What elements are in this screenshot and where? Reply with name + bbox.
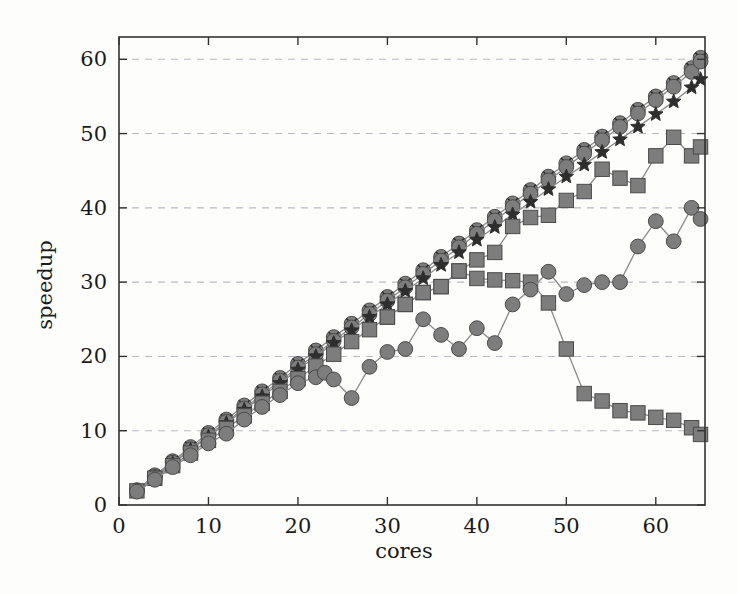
marker-square	[344, 334, 358, 348]
x-tick-label-0: 0	[112, 514, 125, 538]
marker-square	[488, 245, 502, 259]
x-tick-label-20: 20	[285, 514, 312, 538]
marker-square	[595, 162, 609, 176]
data-series-layer	[129, 50, 707, 499]
y-tick-label-40: 40	[80, 196, 107, 220]
marker-circle	[129, 484, 144, 499]
marker-square	[631, 406, 645, 420]
y-axis-label: speedup	[33, 240, 57, 330]
marker-circle	[595, 275, 610, 290]
marker-circle	[434, 327, 449, 342]
marker-square	[577, 184, 591, 198]
chart-canvas: 01020304050600102030405060 cores speedup	[0, 0, 737, 594]
marker-circle	[666, 79, 681, 94]
marker-square	[327, 347, 341, 361]
y-tick-label-30: 30	[80, 270, 107, 294]
series-collapsing-square-series	[380, 264, 708, 442]
marker-circle	[648, 93, 663, 108]
marker-square	[470, 271, 484, 285]
marker-circle	[398, 342, 413, 357]
marker-circle	[648, 214, 663, 229]
x-tick-label-10: 10	[195, 514, 222, 538]
series-line	[137, 208, 701, 492]
speedup-chart-figure: 01020304050600102030405060 cores speedup	[0, 0, 737, 594]
x-tick-label-50: 50	[553, 514, 580, 538]
marker-circle	[291, 376, 306, 391]
marker-circle	[577, 278, 592, 293]
y-tick-label-60: 60	[80, 47, 107, 71]
marker-circle	[416, 312, 431, 327]
marker-circle	[613, 275, 628, 290]
marker-square	[505, 273, 519, 287]
marker-circle	[541, 264, 556, 279]
y-tick-label-20: 20	[80, 344, 107, 368]
marker-square	[666, 130, 680, 144]
marker-circle	[344, 391, 359, 406]
marker-circle	[273, 388, 288, 403]
x-tick-label-40: 40	[463, 514, 490, 538]
marker-circle	[362, 359, 377, 374]
series-erratic-circle-series	[129, 200, 707, 499]
marker-circle	[452, 342, 467, 357]
marker-circle	[505, 297, 520, 312]
marker-square	[613, 403, 627, 417]
marker-square	[470, 253, 484, 267]
marker-circle	[147, 472, 162, 487]
marker-square	[666, 413, 680, 427]
marker-square	[649, 149, 663, 163]
marker-square	[452, 264, 466, 278]
marker-square	[559, 342, 573, 356]
marker-square	[505, 219, 519, 233]
x-tick-label-60: 60	[642, 514, 669, 538]
marker-circle	[469, 321, 484, 336]
marker-square	[434, 279, 448, 293]
y-tick-label-0: 0	[94, 493, 107, 517]
marker-circle	[255, 400, 270, 415]
marker-square	[577, 386, 591, 400]
marker-square	[595, 394, 609, 408]
marker-circle	[219, 426, 234, 441]
marker-square	[416, 285, 430, 299]
x-axis-label: cores	[375, 539, 433, 563]
marker-square	[380, 310, 394, 324]
marker-circle	[559, 287, 574, 302]
marker-circle	[237, 412, 252, 427]
marker-circle	[201, 436, 216, 451]
marker-square	[488, 273, 502, 287]
marker-square	[631, 178, 645, 192]
marker-square	[649, 410, 663, 424]
marker-square	[523, 210, 537, 224]
marker-circle	[631, 239, 646, 254]
marker-square	[541, 208, 555, 222]
marker-circle	[165, 460, 180, 475]
y-tick-label-50: 50	[80, 122, 107, 146]
marker-circle	[326, 372, 341, 387]
marker-circle	[183, 448, 198, 463]
marker-circle	[380, 345, 395, 360]
y-tick-label-10: 10	[80, 419, 107, 443]
grid-lines	[119, 59, 705, 430]
marker-square	[559, 193, 573, 207]
marker-square	[398, 297, 412, 311]
marker-square	[541, 296, 555, 310]
marker-circle	[523, 282, 538, 297]
marker-square	[362, 322, 376, 336]
x-tick-label-30: 30	[374, 514, 401, 538]
marker-circle	[487, 336, 502, 351]
marker-circle	[666, 234, 681, 249]
marker-square	[613, 171, 627, 185]
